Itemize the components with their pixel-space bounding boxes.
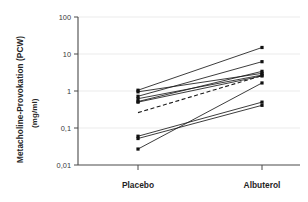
y-tick-label: 0,01 bbox=[57, 161, 71, 170]
x-axis-ticks bbox=[138, 165, 262, 170]
series-group bbox=[136, 46, 263, 151]
series-line-subject-7 bbox=[138, 102, 262, 136]
series-line-subject-9 bbox=[138, 83, 262, 149]
data-point-subject-6-placebo bbox=[136, 101, 139, 104]
y-tick-label: 100 bbox=[59, 13, 71, 22]
data-point-subject-7-albuterol bbox=[260, 101, 263, 104]
category-labels: PlaceboAlbuterol bbox=[122, 180, 280, 190]
x-axis-category-albuterol: Albuterol bbox=[244, 180, 281, 190]
data-point-subject-6-albuterol bbox=[260, 74, 263, 77]
data-point-subject-9-placebo bbox=[136, 147, 139, 150]
slope-plot: 1001010,10,01 PlaceboAlbuterol bbox=[0, 0, 308, 202]
y-tick-label: 10 bbox=[63, 50, 71, 59]
data-point-subject-9-albuterol bbox=[260, 81, 263, 84]
data-point-subject-5-placebo bbox=[136, 97, 139, 100]
data-point-subject-8-albuterol bbox=[260, 104, 263, 107]
chart-figure: Metacholine-Provokation (PCW) (mg/ml) 10… bbox=[0, 0, 308, 202]
data-point-subject-1-albuterol bbox=[260, 46, 263, 49]
data-point-subject-4-placebo bbox=[136, 90, 139, 93]
x-axis-category-placebo: Placebo bbox=[122, 180, 154, 190]
y-tick-label: 1 bbox=[67, 87, 71, 96]
y-axis-ticks: 1001010,10,01 bbox=[57, 13, 78, 170]
data-point-subject-8-placebo bbox=[136, 137, 139, 140]
data-point-subject-2-albuterol bbox=[260, 60, 263, 63]
y-tick-label: 0,1 bbox=[61, 124, 71, 133]
series-line-subject-8 bbox=[138, 105, 262, 138]
